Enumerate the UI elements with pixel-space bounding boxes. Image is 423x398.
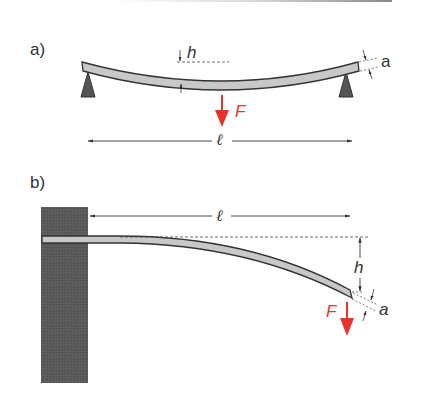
panel-b-diagram <box>41 207 378 383</box>
thickness-label-b: a <box>379 300 388 320</box>
beam-a <box>82 62 359 90</box>
deflection-label-b: h <box>354 258 363 278</box>
force-arrow-a-icon <box>215 95 229 127</box>
beam-b <box>42 236 352 298</box>
beam-deflection-figure <box>0 0 423 398</box>
deflection-label-a: h <box>187 43 196 63</box>
fixed-wall <box>41 207 88 383</box>
top-rule <box>115 0 392 2</box>
length-label-b: ℓ <box>213 206 226 225</box>
left-support-icon <box>81 72 95 97</box>
thickness-label-a: a <box>381 52 390 72</box>
force-label-b: F <box>326 302 336 322</box>
panel-a-diagram <box>81 50 378 141</box>
force-arrow-b-icon <box>340 302 354 336</box>
panel-b-label: b) <box>30 173 45 193</box>
panel-a-label: a) <box>30 40 45 60</box>
force-label-a: F <box>235 102 245 122</box>
length-label-a: ℓ <box>213 130 226 149</box>
